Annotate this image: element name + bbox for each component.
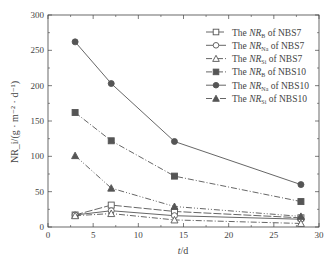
legend-label: The NRNa of NBS10 <box>232 81 309 92</box>
square-marker <box>108 202 114 208</box>
y-axis-label: NR_i/(g · m⁻² · d⁻¹) <box>9 81 21 163</box>
x-tick-label: 25 <box>269 230 279 240</box>
legend-label: The NRSi of NBS7 <box>232 54 302 65</box>
y-tick-label: 100 <box>31 151 45 161</box>
chart-container: 051015202530050100150200250300 The NRB o… <box>0 0 332 260</box>
y-tick-label: 300 <box>31 10 45 20</box>
circle-marker <box>108 81 114 87</box>
legend-item: The NRB of NBS10 <box>206 67 306 78</box>
y-tick-label: 200 <box>31 81 45 91</box>
x-tick-label: 20 <box>224 230 234 240</box>
y-tick-label: 0 <box>40 222 45 232</box>
legend-label: The NRSi of NBS10 <box>232 94 307 105</box>
triangle-marker <box>72 152 79 159</box>
square-marker <box>298 199 304 205</box>
circle-marker <box>72 39 78 45</box>
x-tick-label: 30 <box>315 230 325 240</box>
circle-marker <box>171 138 177 144</box>
square-marker <box>213 69 219 75</box>
y-tick-label: 250 <box>31 45 45 55</box>
legend-item: The NRSi of NBS10 <box>206 94 307 105</box>
circle-marker <box>213 82 219 88</box>
legend-item: The NRNa of NBS10 <box>206 81 309 92</box>
square-marker <box>72 110 78 116</box>
series-line <box>72 152 305 219</box>
legend-item: The NRB of NBS7 <box>206 28 301 39</box>
circle-marker <box>213 43 219 49</box>
legend-item: The NRSi of NBS7 <box>206 54 302 65</box>
circle-marker <box>298 182 304 188</box>
square-marker <box>171 173 177 179</box>
x-tick-label: 5 <box>91 230 96 240</box>
legend: The NRB of NBS7The NRNa of NBS7The NRSi … <box>206 28 309 106</box>
x-tick-label: 10 <box>134 230 144 240</box>
square-marker <box>213 29 219 35</box>
legend-label: The NRB of NBS7 <box>232 28 301 39</box>
square-marker <box>108 138 114 144</box>
legend-label: The NRNa of NBS7 <box>232 41 304 52</box>
y-tick-label: 150 <box>31 116 45 126</box>
x-tick-label: 15 <box>179 230 189 240</box>
triangle-marker <box>213 95 220 101</box>
series-line <box>72 110 304 205</box>
line-chart: 051015202530050100150200250300 The NRB o… <box>0 0 332 260</box>
x-tick-label: 0 <box>46 230 51 240</box>
legend-item: The NRNa of NBS7 <box>206 41 304 52</box>
legend-label: The NRB of NBS10 <box>232 67 306 78</box>
x-axis-label: t/d <box>178 245 189 256</box>
y-tick-label: 50 <box>35 187 45 197</box>
